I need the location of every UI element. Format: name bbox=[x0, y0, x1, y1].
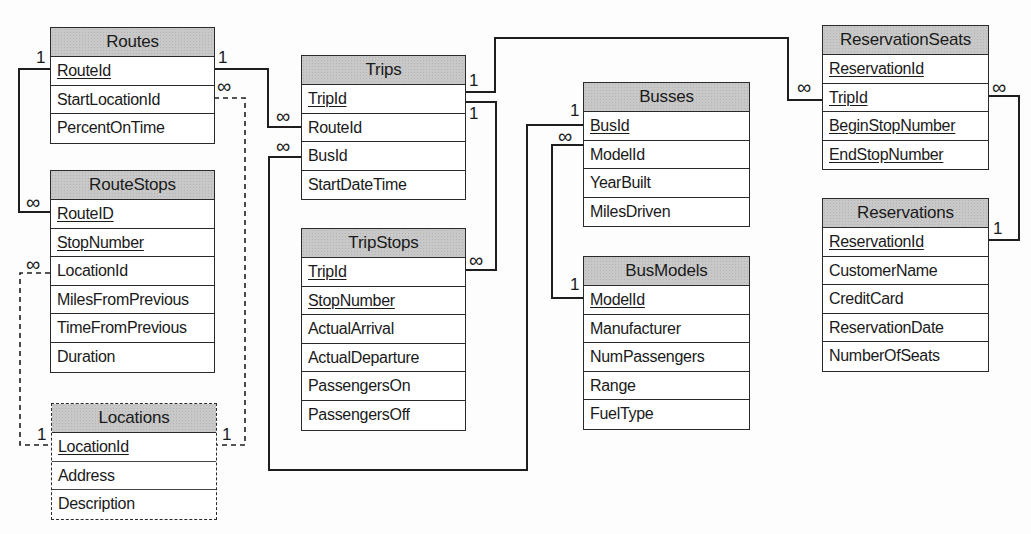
field-address: Address bbox=[52, 462, 216, 491]
table-routes[interactable]: Routes RouteId StartLocationId PercentOn… bbox=[50, 27, 215, 144]
cardinality-one: 1 bbox=[36, 49, 45, 66]
cardinality-one: 1 bbox=[469, 105, 478, 122]
cardinality-many: ∞ bbox=[558, 126, 572, 146]
field-busid: BusId bbox=[302, 142, 465, 171]
field-tripid: TripId bbox=[823, 84, 988, 113]
field-reservationid: ReservationId bbox=[823, 228, 988, 257]
link-routestops-locations bbox=[20, 273, 50, 445]
field-reservationid: ReservationId bbox=[823, 55, 988, 84]
cardinality-many: ∞ bbox=[797, 77, 811, 97]
field-numpassengers: NumPassengers bbox=[584, 343, 749, 372]
table-header: Reservations bbox=[823, 199, 988, 228]
cardinality-many: ∞ bbox=[276, 136, 290, 156]
cardinality-many: ∞ bbox=[276, 106, 290, 126]
field-milesfromprevious: MilesFromPrevious bbox=[51, 286, 214, 315]
table-header: TripStops bbox=[302, 229, 465, 258]
field-stopnumber: StopNumber bbox=[302, 287, 465, 316]
cardinality-many: ∞ bbox=[217, 76, 231, 96]
field-endstopnumber: EndStopNumber bbox=[823, 141, 988, 170]
table-header: Routes bbox=[51, 28, 214, 57]
table-header: RouteStops bbox=[51, 171, 214, 200]
field-range: Range bbox=[584, 372, 749, 401]
field-tripid: TripId bbox=[302, 85, 465, 114]
cardinality-many: ∞ bbox=[26, 254, 40, 274]
field-actualdeparture: ActualDeparture bbox=[302, 344, 465, 373]
field-beginstopnumber: BeginStopNumber bbox=[823, 112, 988, 141]
er-diagram: Routes RouteId StartLocationId PercentOn… bbox=[0, 0, 1031, 534]
field-actualarrival: ActualArrival bbox=[302, 315, 465, 344]
field-fueltype: FuelType bbox=[584, 400, 749, 429]
field-milesdriven: MilesDriven bbox=[584, 198, 749, 227]
field-yearbuilt: YearBuilt bbox=[584, 169, 749, 198]
table-trips[interactable]: Trips TripId RouteId BusId StartDateTime bbox=[301, 55, 466, 200]
cardinality-one: 1 bbox=[218, 49, 227, 66]
cardinality-one: 1 bbox=[469, 72, 478, 89]
field-creditcard: CreditCard bbox=[823, 285, 988, 314]
field-reservationdate: ReservationDate bbox=[823, 314, 988, 343]
field-passengersoff: PassengersOff bbox=[302, 401, 465, 430]
table-header: ReservationSeats bbox=[823, 26, 988, 55]
cardinality-one: 1 bbox=[222, 426, 231, 443]
link-trips-tripstops bbox=[465, 102, 496, 270]
cardinality-one: 1 bbox=[993, 220, 1002, 237]
table-reservations[interactable]: Reservations ReservationId CustomerName … bbox=[822, 198, 989, 372]
cardinality-many: ∞ bbox=[469, 250, 483, 270]
table-header: Busses bbox=[584, 83, 749, 112]
table-header: Locations bbox=[52, 404, 216, 433]
field-startlocationid: StartLocationId bbox=[51, 86, 214, 115]
table-reservationseats[interactable]: ReservationSeats ReservationId TripId Be… bbox=[822, 25, 989, 170]
table-tripstops[interactable]: TripStops TripId StopNumber ActualArriva… bbox=[301, 228, 466, 431]
cardinality-many: ∞ bbox=[992, 77, 1006, 97]
table-header: BusModels bbox=[584, 257, 749, 286]
field-tripid: TripId bbox=[302, 258, 465, 287]
field-duration: Duration bbox=[51, 343, 214, 372]
field-passengerson: PassengersOn bbox=[302, 372, 465, 401]
table-locations[interactable]: Locations LocationId Address Description bbox=[51, 403, 217, 520]
field-busid: BusId bbox=[584, 112, 749, 141]
field-startdatetime: StartDateTime bbox=[302, 171, 465, 200]
table-header: Trips bbox=[302, 56, 465, 85]
link-routes-locations bbox=[214, 98, 245, 445]
field-routeid: RouteID bbox=[51, 200, 214, 229]
field-stopnumber: StopNumber bbox=[51, 229, 214, 258]
field-modelid: ModelId bbox=[584, 141, 749, 170]
table-busses[interactable]: Busses BusId ModelId YearBuilt MilesDriv… bbox=[583, 82, 750, 227]
field-timefromprevious: TimeFromPrevious bbox=[51, 314, 214, 343]
cardinality-one: 1 bbox=[570, 102, 579, 119]
table-busmodels[interactable]: BusModels ModelId Manufacturer NumPassen… bbox=[583, 256, 750, 430]
field-locationid: LocationId bbox=[51, 257, 214, 286]
cardinality-many: ∞ bbox=[26, 192, 40, 212]
table-routestops[interactable]: RouteStops RouteID StopNumber LocationId… bbox=[50, 170, 215, 373]
field-modelid: ModelId bbox=[584, 286, 749, 315]
field-routeid: RouteId bbox=[302, 114, 465, 143]
field-locationid: LocationId bbox=[52, 433, 216, 462]
field-description: Description bbox=[52, 490, 216, 519]
cardinality-one: 1 bbox=[570, 276, 579, 293]
cardinality-one: 1 bbox=[37, 426, 46, 443]
field-manufacturer: Manufacturer bbox=[584, 315, 749, 344]
field-percentontime: PercentOnTime bbox=[51, 114, 214, 143]
field-customername: CustomerName bbox=[823, 257, 988, 286]
field-numberofseats: NumberOfSeats bbox=[823, 342, 988, 371]
field-routeid: RouteId bbox=[51, 57, 214, 86]
